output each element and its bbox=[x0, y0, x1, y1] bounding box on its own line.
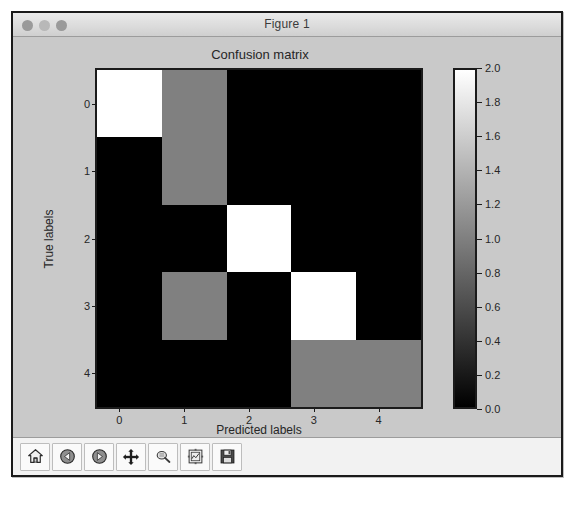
home-icon bbox=[27, 448, 44, 465]
zoom-magnifier-icon bbox=[155, 448, 172, 465]
matrix-cell-2-4 bbox=[356, 205, 421, 272]
colorbar-tick-1.2: 1.2 bbox=[477, 198, 500, 210]
colorbar-tick-0.6: 0.6 bbox=[477, 301, 500, 313]
chart-title: Confusion matrix bbox=[95, 47, 425, 62]
colorbar-tick-1.0: 1.0 bbox=[477, 233, 500, 245]
y-tick-0: 0 bbox=[64, 98, 97, 110]
colorbar-tick-0.8: 0.8 bbox=[477, 267, 500, 279]
save-button[interactable] bbox=[212, 443, 242, 471]
matrix-cell-4-4 bbox=[356, 340, 421, 407]
y-axis-label: True labels bbox=[41, 68, 57, 409]
colorbar-tick-0.4: 0.4 bbox=[477, 335, 500, 347]
matrix-cell-1-3 bbox=[291, 137, 356, 204]
pan-move-icon bbox=[122, 448, 140, 466]
figure-canvas: Confusion matrix True labels 01234 01234… bbox=[13, 37, 561, 439]
back-button[interactable] bbox=[52, 443, 82, 471]
forward-arrow-icon bbox=[91, 448, 108, 465]
matrix-cell-3-1 bbox=[162, 272, 227, 339]
matrix-cell-1-0 bbox=[97, 137, 162, 204]
matrix-cell-4-2 bbox=[227, 340, 292, 407]
matrix-cell-0-3 bbox=[291, 70, 356, 137]
matrix-cell-2-0 bbox=[97, 205, 162, 272]
matplotlib-toolbar bbox=[13, 437, 561, 475]
x-axis-label: Predicted labels bbox=[95, 423, 423, 437]
matrix-cell-0-1 bbox=[162, 70, 227, 137]
matrix-cell-3-2 bbox=[227, 272, 292, 339]
matrix-cell-1-2 bbox=[227, 137, 292, 204]
matrix-cell-4-3 bbox=[291, 340, 356, 407]
colorbar: 2.01.81.61.41.21.00.80.60.40.20.0 bbox=[453, 68, 477, 409]
save-floppy-icon bbox=[219, 448, 236, 465]
matrix-cell-2-3 bbox=[291, 205, 356, 272]
matrix-cell-0-4 bbox=[356, 70, 421, 137]
colorbar-tick-1.6: 1.6 bbox=[477, 130, 500, 142]
y-tick-4: 4 bbox=[64, 367, 97, 379]
colorbar-gradient bbox=[453, 68, 477, 409]
y-tick-1: 1 bbox=[64, 165, 97, 177]
colorbar-tick-0.2: 0.2 bbox=[477, 369, 500, 381]
matrix-cell-3-0 bbox=[97, 272, 162, 339]
matrix-cell-2-2 bbox=[227, 205, 292, 272]
colorbar-tick-0.0: 0.0 bbox=[477, 403, 500, 415]
colorbar-tick-1.8: 1.8 bbox=[477, 96, 500, 108]
matrix-cell-3-3 bbox=[291, 272, 356, 339]
y-tick-2: 2 bbox=[64, 233, 97, 245]
heatmap-axes[interactable]: 01234 01234 bbox=[95, 68, 423, 409]
matrix-cell-2-1 bbox=[162, 205, 227, 272]
window-title: Figure 1 bbox=[13, 17, 561, 31]
configure-subplots-icon bbox=[187, 448, 204, 465]
figure-window: Figure 1 Confusion matrix True labels 01… bbox=[11, 11, 563, 477]
matrix-cell-0-0 bbox=[97, 70, 162, 137]
window-title-bar[interactable]: Figure 1 bbox=[13, 13, 561, 37]
colorbar-tick-2.0: 2.0 bbox=[477, 62, 500, 74]
back-arrow-icon bbox=[59, 448, 76, 465]
confusion-matrix-grid bbox=[97, 70, 421, 407]
home-button[interactable] bbox=[20, 443, 50, 471]
matrix-cell-4-1 bbox=[162, 340, 227, 407]
matrix-cell-4-0 bbox=[97, 340, 162, 407]
matrix-cell-0-2 bbox=[227, 70, 292, 137]
zoom-rect-button[interactable] bbox=[148, 443, 178, 471]
configure-subplots-button[interactable] bbox=[180, 443, 210, 471]
matrix-cell-3-4 bbox=[356, 272, 421, 339]
forward-button[interactable] bbox=[84, 443, 114, 471]
colorbar-tick-1.4: 1.4 bbox=[477, 164, 500, 176]
y-tick-3: 3 bbox=[64, 300, 97, 312]
pan-button[interactable] bbox=[116, 443, 146, 471]
matrix-cell-1-1 bbox=[162, 137, 227, 204]
y-axis-label-text: True labels bbox=[42, 209, 56, 268]
matrix-cell-1-4 bbox=[356, 137, 421, 204]
